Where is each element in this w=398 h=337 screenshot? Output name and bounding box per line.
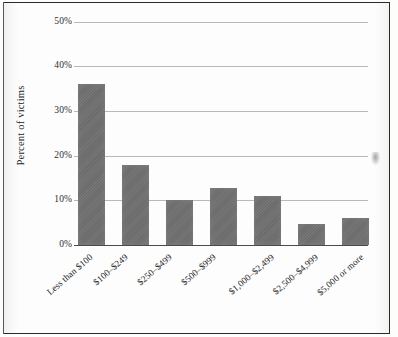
bar-1000-2499[interactable] [254,196,281,245]
x-label-1000-2499: $1,000–$2,499 [227,252,276,297]
scan-artifact-smudge [371,152,380,165]
bar-less-than-100[interactable] [78,84,105,245]
x-label-2500-4999: $2,500–$4,999 [271,252,320,297]
y-tick-10: 10% [0,195,72,205]
bar-250-499[interactable] [166,200,193,245]
bar-2500-4999[interactable] [298,224,325,245]
figure: Percent of victims 50% 40% 30% 20% 10% 0… [0,0,398,337]
x-label-5000-or-more: $5,000 or more [315,252,365,297]
y-tick-50: 50% [0,17,72,27]
gridline-30 [74,111,368,112]
y-tick-20: 20% [0,151,72,161]
x-label-100-249: $100–$249 [91,252,129,287]
bar-5000-or-more[interactable] [342,218,369,245]
gridline-40 [74,66,368,67]
gridline-20 [74,156,368,157]
bar-500-999[interactable] [210,188,237,245]
x-label-250-499: $250–$499 [135,252,173,287]
x-label-500-999: $500–$999 [179,252,217,287]
x-axis-line [74,245,368,246]
plot-area: Percent of victims 50% 40% 30% 20% 10% 0… [0,0,398,337]
y-axis-title: Percent of victims [15,66,26,186]
gridline-50 [74,22,368,23]
x-label-less-than-100: Less than $100 [45,252,95,297]
y-tick-40: 40% [0,61,72,71]
y-tick-30: 30% [0,106,72,116]
bar-100-249[interactable] [122,165,149,245]
y-tick-0: 0% [0,240,72,250]
